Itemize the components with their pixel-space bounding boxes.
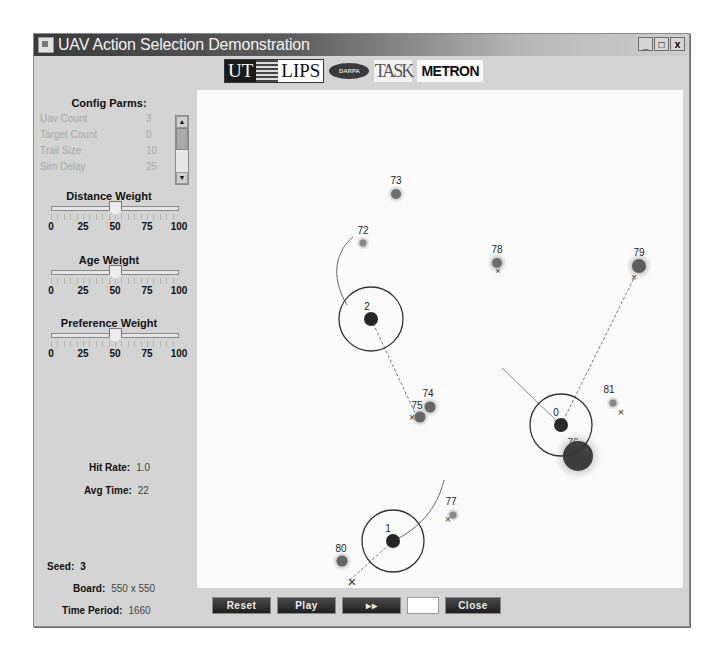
age-weight-slider-group: Age Weight 0 25 50 75 100 (34, 254, 194, 299)
svg-text:78: 78 (491, 244, 503, 255)
svg-text:×: × (495, 266, 500, 276)
app-icon (38, 37, 54, 53)
uav-1-path (350, 541, 393, 580)
config-row: Target Count0 (40, 127, 170, 143)
uav-2[interactable]: 2 (339, 287, 403, 351)
target-77[interactable]: 77× (445, 496, 460, 525)
board-size-stat: Board:550 x 550 (73, 583, 155, 594)
config-row: Sim Delay25 (40, 159, 170, 175)
window-title: UAV Action Selection Demonstration (58, 36, 310, 54)
preference-weight-slider-group: Preference Weight 0 25 50 75 100 (34, 317, 194, 362)
svg-text:73: 73 (390, 175, 402, 186)
slider-tick-labels: 0 25 50 75 100 (34, 221, 194, 235)
slider-ticks (51, 214, 179, 220)
simulation-board[interactable]: 73 72 78× 79× 74 75× 81× 76× 77× 80× 2 0… (196, 90, 683, 588)
svg-text:2: 2 (364, 301, 370, 312)
title-bar[interactable]: UAV Action Selection Demonstration _ □ x (34, 34, 689, 56)
task-logo: TASK (374, 60, 412, 82)
target-78[interactable]: 78× (487, 244, 507, 276)
slider-title: Preference Weight (34, 317, 184, 329)
scroll-down-arrow-icon[interactable]: ▼ (176, 172, 188, 184)
svg-text:74: 74 (422, 388, 434, 399)
fast-forward-button[interactable]: ▸▸ (342, 597, 401, 614)
slider-tick-labels: 0 25 50 75 100 (34, 348, 194, 362)
target-79[interactable]: 79× (626, 247, 652, 283)
svg-text:72: 72 (357, 225, 369, 236)
scroll-thumb[interactable] (176, 128, 188, 150)
darpa-logo: DARPA (329, 63, 369, 79)
svg-text:×: × (631, 272, 637, 283)
svg-text:76: 76 (567, 437, 579, 448)
close-window-button[interactable]: x (670, 37, 685, 51)
preference-weight-slider[interactable] (51, 333, 179, 338)
board-canvas: 73 72 78× 79× 74 75× 81× 76× 77× 80× 2 0… (197, 90, 683, 588)
target-81[interactable]: 81× (603, 384, 624, 418)
step-input[interactable] (407, 597, 439, 614)
sponsor-logos: UT LIPS DARPA TASK METRON (224, 59, 483, 83)
ut-lips-emblem-icon (256, 60, 278, 82)
svg-text:1: 1 (385, 523, 391, 534)
uav-1[interactable]: 1 (362, 510, 424, 572)
svg-text:77: 77 (445, 496, 457, 507)
config-row: Trail Size10 (40, 143, 170, 159)
svg-text:81: 81 (603, 384, 615, 395)
scroll-up-arrow-icon[interactable]: ▲ (176, 116, 188, 128)
target-80[interactable]: 80× (332, 543, 356, 588)
config-title: Config Parms: (34, 97, 184, 109)
slider-title: Age Weight (34, 254, 184, 266)
seed-stat: Seed:3 (47, 561, 86, 572)
uav-2-path (371, 319, 417, 417)
uav-0-path (561, 278, 634, 425)
play-button[interactable]: Play (277, 597, 336, 614)
slider-title: Distance Weight (34, 190, 184, 202)
ut-lips-logo: UT LIPS (224, 59, 324, 83)
target-73[interactable]: 73 (387, 175, 405, 203)
close-button[interactable]: Close (445, 597, 501, 614)
svg-text:0: 0 (553, 407, 559, 418)
svg-text:75: 75 (411, 400, 423, 411)
config-list: Uav Count3 Target Count0 Trail Size10 Si… (40, 111, 170, 175)
playback-controls: Reset Play ▸▸ Close (212, 597, 501, 614)
slider-ticks (51, 341, 179, 347)
distance-weight-slider[interactable] (51, 206, 179, 211)
slider-ticks (51, 278, 179, 284)
minimize-button[interactable]: _ (638, 37, 653, 51)
svg-text:×: × (409, 412, 415, 423)
metron-logo: METRON (417, 60, 483, 82)
app-window: UAV Action Selection Demonstration _ □ x… (33, 33, 690, 627)
svg-text:×: × (618, 406, 624, 418)
avg-time-stat: Avg Time:22 (84, 485, 149, 496)
target-72[interactable]: 72 (356, 225, 370, 250)
config-scrollbar[interactable]: ▲ ▼ (175, 115, 189, 185)
control-panel: Config Parms: Uav Count3 Target Count0 T… (34, 89, 196, 589)
slider-tick-labels: 0 25 50 75 100 (34, 285, 194, 299)
svg-text:×: × (445, 514, 451, 525)
hit-rate-stat: Hit Rate:1.0 (89, 462, 150, 473)
time-period-stat: Time Period:1660 (62, 605, 151, 616)
maximize-button[interactable]: □ (654, 37, 669, 51)
svg-text:80: 80 (335, 543, 347, 554)
config-row: Uav Count3 (40, 111, 170, 127)
reset-button[interactable]: Reset (212, 597, 271, 614)
svg-text:×: × (348, 573, 357, 588)
age-weight-slider[interactable] (51, 270, 179, 275)
distance-weight-slider-group: Distance Weight 0 25 50 75 100 (34, 190, 194, 235)
svg-text:79: 79 (633, 247, 645, 258)
